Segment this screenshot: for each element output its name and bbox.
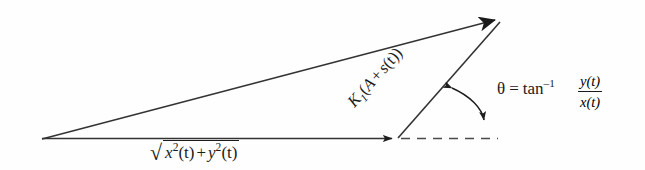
- resultant-vector-line: [42, 20, 495, 139]
- theta-equation: θ=tan–1: [497, 78, 555, 97]
- plus-operator: +: [194, 143, 208, 162]
- equals-sign: =: [505, 79, 523, 98]
- x-base: x: [165, 143, 173, 162]
- y-argument: (t): [221, 143, 237, 162]
- theta-fraction: y(t) x(t): [578, 72, 602, 111]
- magnitude-label: √x2(t)+y2(t): [150, 140, 239, 162]
- x-argument: (t): [178, 143, 194, 162]
- fraction-denominator: x(t): [578, 92, 602, 111]
- radical-sign: √: [150, 140, 162, 165]
- inverse-exponent: –1: [544, 77, 555, 89]
- diagonal-vector-line: [398, 22, 500, 138]
- fraction-numerator: y(t): [578, 72, 602, 92]
- radicand-expression: x2(t)+y2(t): [163, 140, 239, 161]
- y-base: y: [208, 143, 216, 162]
- angle-arc: [452, 88, 484, 120]
- vector-diagram-figure: √x2(t)+y2(t) K1(A+s(t)) θ=tan–1 y(t) x(t…: [0, 0, 645, 170]
- theta-symbol: θ: [497, 79, 505, 98]
- tan-function: tan: [523, 79, 544, 98]
